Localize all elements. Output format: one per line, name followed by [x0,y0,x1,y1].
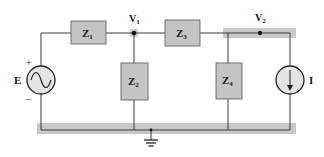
current-source: I [276,66,313,94]
ground-icon [144,140,158,146]
ground-node-dot [150,129,153,132]
impedance-z4: Z4 [216,63,242,99]
svg-text:–: – [25,93,32,104]
svg-text:+: + [26,57,32,68]
circuit-diagram: V1 V2 Z1 Z3 Z2 Z4 E + – I [0,0,324,157]
v2-label: V2 [255,12,266,25]
impedance-z2: Z2 [121,63,148,100]
impedance-z1: Z1 [71,21,106,44]
impedance-z3: Z3 [165,20,200,46]
v1-label: V1 [129,13,140,26]
svg-text:I: I [309,74,313,86]
ground-rail-highlight [37,123,296,134]
svg-text:E: E [14,74,21,86]
v1-node-dot [132,31,136,35]
v2-node-dot [258,31,262,35]
ac-voltage-source: E + – [14,57,55,104]
